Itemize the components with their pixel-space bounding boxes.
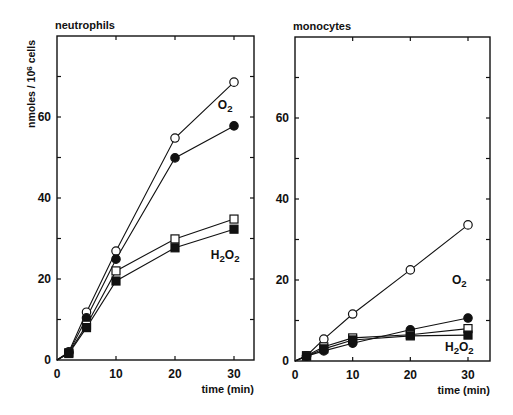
- filled-circle-marker: [230, 122, 238, 130]
- panel-monocytes: monocytes01020300204060time (min)O2H2O2: [276, 20, 491, 396]
- y-tick-label: 20: [276, 273, 290, 287]
- filled-square-marker: [320, 345, 328, 353]
- filled-square-marker: [406, 332, 414, 340]
- y-tick-label: 60: [38, 110, 52, 124]
- filled-square-marker: [349, 336, 357, 344]
- filled-square-marker: [464, 331, 472, 339]
- x-tick-label: 0: [54, 367, 61, 381]
- filled-circle-marker: [112, 255, 120, 263]
- filled-square-marker: [303, 352, 311, 360]
- chart-svg: neutrophils01020300204060time (min)nmole…: [0, 0, 513, 415]
- open-circle-marker: [171, 134, 179, 142]
- open-square-marker: [112, 267, 120, 275]
- filled-square-marker: [230, 225, 238, 233]
- x-tick-label: 20: [404, 368, 418, 382]
- y-tick-label: 60: [276, 111, 290, 125]
- x-tick-label: 10: [346, 368, 360, 382]
- filled-square-marker: [171, 244, 179, 252]
- open-square-marker: [230, 215, 238, 223]
- panel-title: neutrophils: [55, 19, 115, 31]
- y-tick-label: 20: [38, 272, 52, 286]
- x-tick-label: 10: [109, 367, 123, 381]
- filled-square-marker: [83, 324, 91, 332]
- x-tick-label: 20: [168, 367, 182, 381]
- panel-title: monocytes: [293, 20, 351, 32]
- filled-square-marker: [112, 277, 120, 285]
- x-axis-label: time (min): [437, 384, 490, 396]
- open-circle-marker: [230, 78, 238, 86]
- figure: neutrophils01020300204060time (min)nmole…: [0, 0, 513, 415]
- filled-circle-marker: [464, 314, 472, 322]
- y-tick-label: 0: [282, 354, 289, 368]
- y-tick-label: 0: [44, 353, 51, 367]
- open-circle-marker: [112, 247, 120, 255]
- x-tick-label: 0: [292, 368, 299, 382]
- plot-frame: [295, 37, 490, 361]
- x-tick-label: 30: [461, 368, 475, 382]
- open-square-marker: [171, 235, 179, 243]
- open-circle-marker: [464, 221, 472, 229]
- series-line: [57, 229, 234, 360]
- label-h2o2: H2O2: [445, 340, 474, 356]
- x-axis-label: time (min): [201, 383, 254, 395]
- open-circle-marker: [348, 310, 356, 318]
- series-line: [57, 219, 234, 360]
- filled-circle-marker: [171, 154, 179, 162]
- x-tick-label: 30: [227, 367, 241, 381]
- y-tick-label: 40: [276, 192, 290, 206]
- filled-square-marker: [65, 350, 73, 358]
- label-o2: O2: [452, 273, 467, 289]
- label-h2o2: H2O2: [211, 248, 240, 264]
- panel-neutrophils: neutrophils01020300204060time (min)nmole…: [25, 19, 255, 395]
- open-circle-marker: [320, 335, 328, 343]
- label-o2: O2: [218, 98, 233, 114]
- y-axis-label: nmoles / 106 cells: [25, 40, 37, 128]
- y-tick-label: 40: [38, 191, 52, 205]
- open-circle-marker: [406, 266, 414, 274]
